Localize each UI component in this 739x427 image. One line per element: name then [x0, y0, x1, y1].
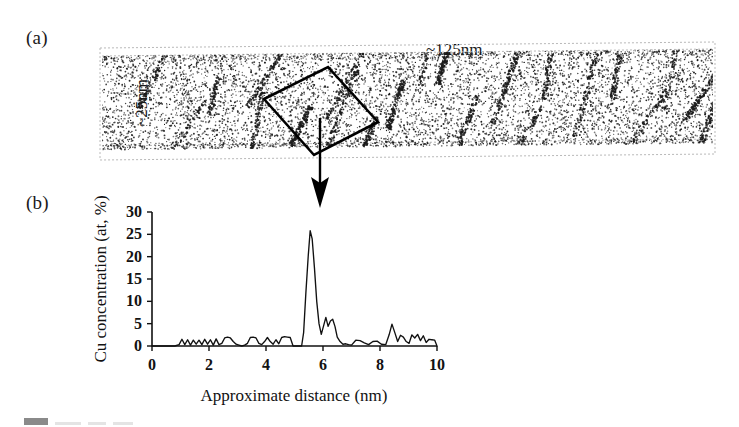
atom-dots	[96, 48, 719, 150]
atom-dot	[481, 144, 482, 145]
atom-dot	[172, 68, 173, 69]
atom-dot	[104, 119, 106, 121]
atom-dot	[232, 86, 233, 87]
atom-dot	[356, 60, 357, 61]
atom-dot	[149, 110, 151, 112]
atom-dot	[403, 72, 405, 74]
atom-dot	[684, 72, 685, 73]
atom-dot	[547, 99, 548, 100]
atom-dot	[247, 97, 249, 99]
atom-dot	[212, 63, 213, 64]
atom-dot	[304, 55, 305, 56]
atom-dot	[128, 97, 130, 99]
atom-dot	[700, 87, 701, 88]
atom-dot	[255, 116, 256, 117]
atom-dot	[421, 84, 423, 86]
atom-dot	[536, 143, 537, 144]
atom-dot	[181, 101, 182, 102]
atom-dot	[509, 137, 511, 139]
atom-dot	[202, 105, 204, 107]
atom-dot	[420, 120, 421, 121]
atom-dot	[519, 100, 520, 101]
atom-dot	[538, 64, 539, 65]
atom-dot	[513, 100, 515, 102]
atom-dot	[389, 57, 391, 59]
atom-dot	[497, 99, 499, 101]
atom-dot	[415, 100, 417, 102]
atom-dot	[591, 113, 593, 115]
atom-dot	[643, 97, 644, 98]
atom-dot	[374, 139, 376, 141]
atom-dot	[514, 95, 515, 96]
atom-dot	[117, 70, 119, 72]
atom-dot	[522, 136, 524, 138]
atom-dot	[212, 148, 213, 149]
atom-dot	[485, 87, 486, 88]
atom-dot	[283, 138, 285, 140]
atom-dot	[112, 124, 114, 126]
atom-dot	[375, 73, 377, 75]
atom-dot	[699, 92, 700, 93]
atom-dot	[612, 102, 613, 103]
atom-dot	[711, 56, 713, 58]
atom-dot	[273, 125, 274, 126]
atom-dot	[617, 77, 619, 79]
atom-dot	[439, 55, 440, 56]
atom-dot	[647, 107, 648, 108]
atom-dot	[695, 93, 697, 95]
atom-dot	[153, 131, 154, 132]
atom-dot	[640, 128, 641, 129]
atom-dot	[552, 119, 553, 120]
atom-dot	[283, 81, 284, 82]
atom-dot	[258, 109, 260, 111]
atom-dot	[338, 130, 340, 132]
atom-dot	[196, 115, 198, 117]
atom-dot	[449, 64, 451, 66]
atom-dot	[200, 96, 202, 98]
atom-dot	[316, 116, 317, 117]
atom-dot	[614, 97, 615, 98]
atom-dot	[100, 74, 102, 76]
atom-dot	[289, 143, 290, 144]
atom-dot	[423, 146, 424, 147]
atom-dot	[154, 60, 155, 61]
atom-dot	[210, 95, 212, 97]
atom-dot	[190, 121, 192, 123]
atom-dot	[490, 121, 492, 123]
atom-dot	[213, 87, 215, 89]
atom-dot	[303, 115, 305, 117]
atom-dot	[346, 52, 348, 54]
atom-dot	[603, 116, 605, 118]
atom-dot	[396, 144, 398, 146]
atom-dot	[518, 137, 520, 139]
atom-dot	[461, 124, 463, 126]
atom-dot	[116, 88, 117, 89]
atom-dot	[700, 105, 701, 106]
atom-dot	[251, 101, 253, 103]
atom-dot	[128, 64, 129, 66]
atom-dot	[422, 63, 424, 65]
atom-dot	[437, 59, 439, 61]
atom-dot	[533, 71, 534, 72]
atom-dot	[275, 146, 277, 148]
atom-dot	[381, 58, 382, 59]
atom-dot	[271, 128, 272, 129]
atom-dot	[267, 70, 269, 72]
atom-dot	[147, 137, 149, 139]
atom-dot	[488, 110, 489, 111]
atom-dot	[495, 78, 496, 79]
atom-dot	[626, 126, 627, 127]
atom-dot	[350, 131, 351, 132]
atom-dot	[397, 68, 399, 70]
atom-dot	[357, 58, 359, 60]
atom-dot	[398, 87, 400, 89]
atom-dot	[253, 107, 255, 109]
atom-dot	[515, 97, 516, 98]
atom-dot	[432, 99, 434, 101]
atom-dot	[355, 115, 357, 117]
atom-dot	[614, 87, 616, 89]
atom-dot	[698, 142, 699, 143]
atom-dot	[328, 95, 330, 97]
atom-dot	[101, 109, 102, 110]
atom-dot	[683, 107, 685, 109]
